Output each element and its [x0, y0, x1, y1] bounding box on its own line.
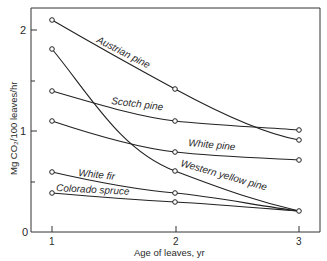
y-axis-title: Mg CO₂/100 leaves/hr [8, 82, 19, 175]
y-tick-label-2: 2 [20, 24, 26, 36]
x-axis-title: Age of leaves, yr [134, 247, 205, 258]
y-tick-label-1: 1 [20, 125, 26, 137]
x-tick-label-2: 2 [173, 236, 179, 247]
label-white-pine: White pine [188, 137, 236, 152]
label-western-yellow-pine: Western yellow pine [179, 157, 268, 192]
x-tick-label-1: 1 [49, 236, 55, 247]
y-tick-label-0: 0 [22, 226, 28, 238]
y-axis-ticks [31, 30, 37, 182]
label-austrian-pine: Austrian pine [94, 34, 152, 71]
x-tick-label-3: 3 [296, 236, 302, 247]
photosynthesis-line-chart: 2 1 0 1 2 3 Age of leaves, yr Mg CO₂/100… [0, 0, 327, 261]
label-white-fir: White fir [78, 167, 116, 182]
x-axis-ticks [52, 226, 299, 232]
